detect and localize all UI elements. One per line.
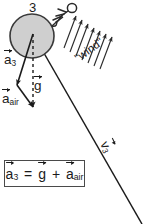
physics-diagram: 3 "wind" a3 g aair v3 a3 = g + aair bbox=[0, 0, 151, 224]
equation-term1-symbol: g bbox=[38, 166, 46, 182]
equation-term2-subscript: air bbox=[74, 172, 84, 182]
equation-lhs-symbol: a bbox=[6, 166, 14, 182]
vector-a-air-symbol: a bbox=[2, 91, 10, 106]
equation-text: a3 = g + aair bbox=[6, 166, 84, 182]
person-icon bbox=[53, 3, 77, 22]
trajectory-line bbox=[33, 34, 142, 224]
vector-g-label: g bbox=[34, 79, 42, 93]
equation-box: a3 = g + aair bbox=[4, 160, 85, 187]
vector-a-air bbox=[17, 85, 33, 107]
vector-a-air-subscript: air bbox=[10, 97, 19, 107]
vector-a3-symbol: a bbox=[4, 52, 12, 67]
equation-plus: + bbox=[52, 166, 60, 182]
ball-label: 3 bbox=[29, 1, 36, 14]
vector-a3-subscript: 3 bbox=[12, 58, 17, 68]
equation-lhs-subscript: 3 bbox=[13, 172, 18, 182]
vector-a3-label: a3 bbox=[4, 53, 16, 67]
vector-a-air-label: aair bbox=[2, 92, 19, 106]
vector-g-symbol: g bbox=[34, 78, 42, 93]
equation-equals: = bbox=[24, 166, 32, 182]
equation-term2-symbol: a bbox=[66, 166, 74, 182]
diagram-canvas bbox=[0, 0, 151, 224]
